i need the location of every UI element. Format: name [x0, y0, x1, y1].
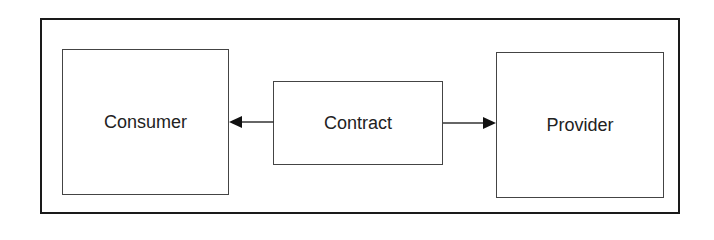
provider-label: Provider [546, 115, 613, 136]
consumer-node: Consumer [62, 49, 229, 195]
arrow-contract-to-provider [443, 115, 497, 131]
contract-label: Contract [324, 113, 392, 134]
contract-node: Contract [273, 81, 443, 165]
provider-node: Provider [496, 52, 664, 198]
consumer-label: Consumer [104, 112, 187, 133]
arrow-contract-to-consumer [228, 114, 274, 130]
